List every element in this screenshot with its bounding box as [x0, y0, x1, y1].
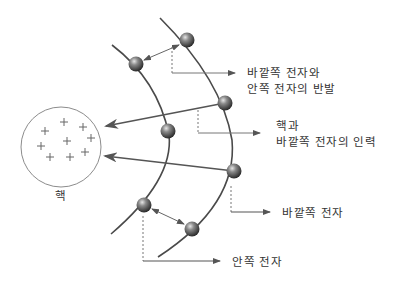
electron-outer-top [180, 33, 195, 48]
electron-outer-lower-mid [227, 164, 242, 179]
repulsion-label-line1: 바깥쪽 전자와 [247, 65, 320, 81]
electron-outer-bottom [185, 222, 200, 237]
attraction-label-line2: 바깥쪽 전자의 인력 [276, 134, 376, 150]
electron-inner-mid [161, 124, 176, 139]
nucleus [21, 107, 101, 187]
inner-electron-label: 안쪽 전자 [232, 254, 282, 270]
electron-inner-bottom [137, 198, 152, 213]
outer-electron-label: 바깥쪽 전자 [282, 205, 344, 221]
nucleus-label: 핵 [55, 188, 67, 204]
electron-inner-top [129, 57, 144, 72]
attraction-arrow-lower [105, 156, 234, 171]
repulsion-arrow-top [144, 45, 179, 60]
leader-repulsion [172, 47, 235, 73]
electrons [129, 33, 242, 237]
repulsion-arrow-bottom [152, 209, 184, 224]
repulsion-label-line2: 안쪽 전자의 반발 [247, 81, 336, 97]
leader-outer-electron [231, 186, 270, 212]
attraction-label-line1: 핵과 [276, 118, 299, 134]
electron-outer-upper-mid [218, 96, 233, 111]
leader-attraction [198, 110, 260, 133]
